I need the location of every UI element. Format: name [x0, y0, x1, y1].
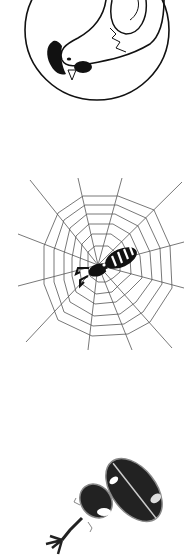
spider-web-icon: [0, 170, 187, 360]
beetle-illustration: [0, 420, 187, 559]
bird-illustration: [0, 0, 187, 110]
bird-icon: [0, 0, 187, 110]
spider-web-illustration: [0, 170, 187, 360]
beetle-icon: [0, 420, 187, 559]
